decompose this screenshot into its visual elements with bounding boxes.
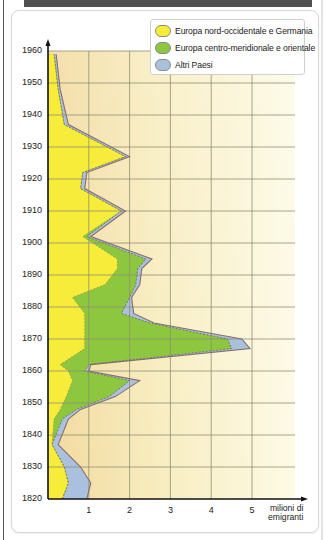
y-tick-label: 1880 xyxy=(12,301,42,311)
y-tick-label: 1910 xyxy=(12,205,42,215)
x-axis-unit-label: milioni di emigranti xyxy=(268,504,303,522)
y-tick-label: 1940 xyxy=(12,109,42,119)
legend-item-nw-europe: Europa nord-occidentale e Germania xyxy=(155,23,313,39)
y-tick-label: 1840 xyxy=(12,429,42,439)
y-tick-label: 1960 xyxy=(12,45,42,55)
legend-label: Altri Paesi xyxy=(175,60,213,70)
legend-swatch-blue xyxy=(155,59,171,71)
legend-swatch-yellow xyxy=(155,25,171,37)
y-tick-label: 1870 xyxy=(12,333,42,343)
x-tick-label: 5 xyxy=(245,505,259,515)
y-tick-label: 1830 xyxy=(12,461,42,471)
legend-item-other: Altri Paesi xyxy=(155,57,213,73)
x-tick-label: 2 xyxy=(123,505,137,515)
y-tick-label: 1860 xyxy=(12,365,42,375)
y-tick-label: 1890 xyxy=(12,269,42,279)
y-tick-label: 1850 xyxy=(12,397,42,407)
y-tick-label: 1820 xyxy=(12,493,42,503)
y-tick-label: 1930 xyxy=(12,141,42,151)
x-axis-unit-line2: emigranti xyxy=(268,513,303,522)
x-tick-label: 1 xyxy=(82,505,96,515)
x-tick-label: 3 xyxy=(163,505,177,515)
legend-label: Europa centro-meridionale e orientale xyxy=(175,43,315,53)
legend-swatch-green xyxy=(155,42,171,54)
legend: Europa nord-occidentale e Germania Europ… xyxy=(150,19,305,75)
emigration-chart xyxy=(0,0,325,540)
legend-label: Europa nord-occidentale e Germania xyxy=(175,26,313,36)
x-tick-label: 4 xyxy=(204,505,218,515)
y-tick-label: 1900 xyxy=(12,237,42,247)
y-tick-label: 1950 xyxy=(12,77,42,87)
y-tick-label: 1920 xyxy=(12,173,42,183)
legend-item-cs-europe: Europa centro-meridionale e orientale xyxy=(155,40,315,56)
